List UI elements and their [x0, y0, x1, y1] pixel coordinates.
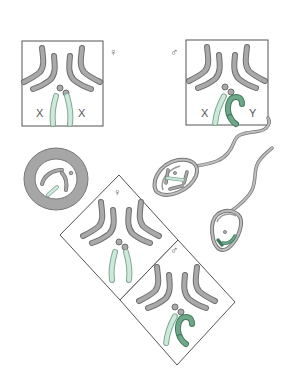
sperm-y-cell	[212, 148, 272, 250]
zygote-male-symbol-icon: ♂	[170, 244, 178, 256]
sperm-x-cell	[155, 118, 270, 195]
male-symbol-icon: ♂	[170, 46, 178, 58]
zygote-female-symbol-icon: ♀	[113, 186, 121, 198]
x-chromosome-icon	[112, 252, 115, 280]
male-karyotype-panel: X Y ♂	[170, 40, 268, 125]
female-left-label: X	[36, 107, 44, 119]
female-symbol-icon: ♀	[109, 46, 117, 58]
male-right-label: Y	[249, 107, 257, 119]
female-karyotype-panel: X X ♀	[22, 41, 117, 126]
x-chromosome-icon	[53, 96, 56, 124]
egg-cell	[24, 148, 88, 210]
female-panel-frame	[22, 41, 103, 126]
female-right-label: X	[78, 107, 86, 119]
male-left-label: X	[201, 107, 209, 119]
x-chromosome-icon	[67, 96, 70, 124]
diagram-canvas: X X ♀ X Y ♂	[0, 0, 291, 375]
x-chromosome-icon	[126, 252, 129, 280]
